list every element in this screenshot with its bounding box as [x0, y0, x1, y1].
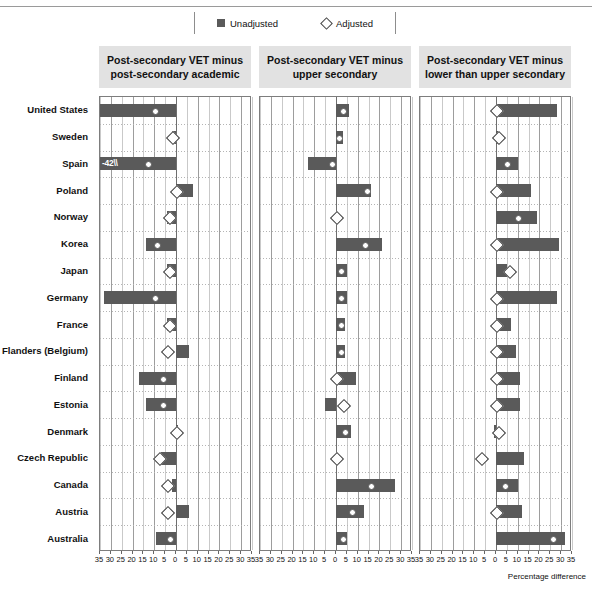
chart-panel-3	[419, 96, 571, 551]
horizontal-gridline	[260, 445, 410, 446]
axis-tick	[197, 551, 198, 554]
axis-tick-label: 20	[214, 555, 222, 564]
horizontal-gridline	[260, 231, 410, 232]
horizontal-gridline	[420, 418, 570, 419]
axis-tick-label: 15	[298, 555, 306, 564]
axis-tick	[175, 551, 176, 554]
horizontal-gridline	[100, 391, 250, 392]
axis-tick-label: 30	[266, 555, 274, 564]
horizontal-gridline	[100, 338, 250, 339]
marker-adjusted	[492, 131, 506, 145]
vertical-gridline	[572, 97, 573, 550]
axis-tick	[302, 551, 303, 554]
vertical-gridline	[241, 97, 242, 550]
axis-tick	[528, 551, 529, 554]
marker-adjusted	[362, 242, 369, 249]
vertical-gridline	[561, 97, 562, 550]
axis-tick-label: 30	[426, 555, 434, 564]
marker-adjusted	[364, 188, 371, 195]
vertical-gridline	[293, 97, 294, 550]
plot-area: -42\\	[0, 96, 592, 551]
axis-tick-label: 15	[523, 555, 531, 564]
axis-tick	[549, 551, 550, 554]
axis-tick-label: 15	[363, 555, 371, 564]
marker-adjusted	[336, 399, 350, 413]
axis-tick-label: 5	[482, 555, 486, 564]
axis-tick	[208, 551, 209, 554]
axis-tick	[506, 551, 507, 554]
horizontal-gridline	[100, 151, 250, 152]
horizontal-gridline	[420, 365, 570, 366]
horizontal-gridline	[100, 231, 250, 232]
horizontal-gridline	[420, 338, 570, 339]
horizontal-gridline	[100, 418, 250, 419]
axis-tick-label: 5	[504, 555, 508, 564]
horizontal-gridline	[260, 124, 410, 125]
panel-headers: Post-secondary VET minus post-secondary …	[0, 46, 592, 88]
chart-panel-1: -42\\	[99, 96, 251, 551]
axis-tick-label: 25	[277, 555, 285, 564]
marker-adjusted	[154, 242, 161, 249]
horizontal-gridline	[100, 177, 250, 178]
vertical-gridline	[176, 97, 177, 550]
marker-adjusted	[336, 135, 343, 142]
marker-adjusted	[330, 211, 344, 225]
panel-header-2: Post-secondary VET minus upper secondary	[259, 46, 411, 88]
axis-tick	[419, 551, 420, 554]
axis-tick	[240, 551, 241, 554]
axis-tick	[389, 551, 390, 554]
horizontal-gridline	[420, 498, 570, 499]
axis-tick-label: 15	[138, 555, 146, 564]
axis-tick-label: 35	[415, 555, 423, 564]
bar-unadjusted	[100, 104, 176, 117]
vertical-gridline	[219, 97, 220, 550]
marker-adjusted	[550, 536, 557, 543]
horizontal-gridline	[260, 311, 410, 312]
axis-tick	[571, 551, 572, 554]
axis-tick-label: 0	[493, 555, 497, 564]
vertical-gridline	[420, 97, 421, 550]
axis-tick	[229, 551, 230, 554]
axis-tick-label: 0	[173, 555, 177, 564]
horizontal-gridline	[420, 525, 570, 526]
axis-tick	[495, 551, 496, 554]
horizontal-gridline	[420, 258, 570, 259]
horizontal-gridline	[100, 204, 250, 205]
axis-tick	[517, 551, 518, 554]
bar-unadjusted	[496, 238, 559, 251]
diamond-icon	[320, 17, 333, 30]
horizontal-gridline	[260, 284, 410, 285]
truncated-value-label: -42\\	[100, 157, 118, 170]
axis-tick	[335, 551, 336, 554]
axis-tick-label: 10	[513, 555, 521, 564]
axis-tick	[473, 551, 474, 554]
axis-tick	[259, 551, 260, 554]
axis-tick-label: 35	[407, 555, 415, 564]
vertical-gridline	[518, 97, 519, 550]
vertical-gridline	[282, 97, 283, 550]
vertical-gridline	[474, 97, 475, 550]
axis-tick-label: 10	[469, 555, 477, 564]
horizontal-gridline	[100, 445, 250, 446]
axis-tick	[368, 551, 369, 554]
axis-tick-label: 10	[353, 555, 361, 564]
horizontal-gridline	[420, 472, 570, 473]
marker-adjusted	[340, 108, 347, 115]
marker-adjusted	[330, 452, 344, 466]
legend-item-unadjusted: Unadjusted	[217, 18, 278, 29]
marker-adjusted	[502, 483, 509, 490]
axis-tick-label: 20	[447, 555, 455, 564]
axis-tick-label: 5	[322, 555, 326, 564]
horizontal-gridline	[420, 177, 570, 178]
vertical-gridline	[209, 97, 210, 550]
axis-tick-label: 15	[458, 555, 466, 564]
marker-adjusted	[166, 131, 180, 145]
panel-header-3: Post-secondary VET minus lower than uppe…	[419, 46, 571, 88]
panel-header-1: Post-secondary VET minus post-secondary …	[99, 46, 251, 88]
vertical-gridline	[431, 97, 432, 550]
axis-tick-label: 5	[344, 555, 348, 564]
axis-tick-label: 25	[385, 555, 393, 564]
vertical-gridline	[453, 97, 454, 550]
horizontal-gridline	[420, 231, 570, 232]
vertical-gridline	[230, 97, 231, 550]
